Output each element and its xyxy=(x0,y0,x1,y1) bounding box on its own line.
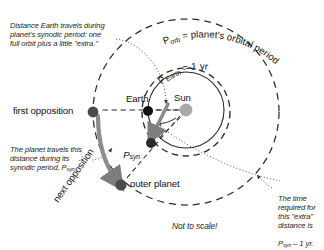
earth-extra-arrow xyxy=(153,104,168,134)
p-earth-sub: Earth xyxy=(164,69,182,83)
not-to-scale-caption: Not to scale! xyxy=(172,222,217,232)
extra-time-formula-sub: syn xyxy=(283,242,291,248)
p-syn-sub: syn xyxy=(130,154,140,161)
planet-travel-note: The planet travels this distance during … xyxy=(10,137,114,173)
earth-next-opposition-dot xyxy=(146,138,156,148)
extra-time-formula-rest: – 1 yr. xyxy=(291,239,313,248)
earth-first-opposition-dot xyxy=(143,106,153,116)
earth-travel-note: Distance Earth travels during planet's s… xyxy=(10,22,132,49)
planet-next-opposition-dot xyxy=(115,179,126,190)
p-orb-rest: = planet's orbital period xyxy=(178,28,281,66)
p-syn-label: Psyn xyxy=(113,138,140,173)
planet-first-opposition-dot xyxy=(88,107,99,118)
extra-distance-dotted-arc xyxy=(158,125,280,181)
diagram-canvas: Porb = planet's orbital period PEarth = … xyxy=(0,0,324,250)
p-earth-curved-label: PEarth = 1 yr xyxy=(155,60,209,86)
sun-label: Sun xyxy=(174,92,191,103)
first-opposition-label: first opposition xyxy=(13,105,73,116)
p-earth-base: P xyxy=(155,73,167,86)
outer-planet-label: outer planet xyxy=(130,178,179,189)
sun-dot xyxy=(180,104,193,117)
extra-time-note-text: The time required for this "extra" dista… xyxy=(278,194,316,230)
p-orb-sub: orb xyxy=(169,36,181,45)
extra-time-note: The time required for this "extra" dista… xyxy=(278,186,324,249)
p-orb-base: P xyxy=(161,34,171,46)
earth-label: Earth xyxy=(126,93,148,104)
